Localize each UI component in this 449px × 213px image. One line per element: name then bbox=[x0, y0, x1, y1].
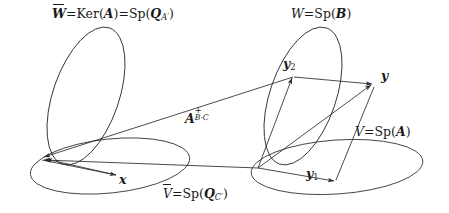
label-w-bar: W=Ker(A)=Sp(QA′) bbox=[52, 6, 174, 22]
label-v: V=Sp(A) bbox=[355, 124, 411, 139]
label-w: W=Sp(B) bbox=[291, 6, 351, 21]
label-vector-y2: y2 bbox=[283, 56, 296, 72]
ellipse-v bbox=[249, 134, 424, 200]
ellipse-w-bar bbox=[31, 17, 140, 175]
diagram-vector-graphics bbox=[0, 0, 449, 213]
label-vector-y1: y1 bbox=[306, 166, 319, 182]
vector-y1 bbox=[258, 168, 334, 181]
label-v-bar: V=Sp(QC′) bbox=[163, 186, 228, 202]
label-pseudoinverse-map: A+B·C bbox=[185, 110, 212, 126]
edge-y2-to-y bbox=[294, 77, 372, 84]
map-line-upper bbox=[44, 77, 293, 157]
label-vector-x: x bbox=[119, 172, 126, 187]
vector-y2 bbox=[258, 78, 292, 168]
label-vector-y: y bbox=[381, 68, 388, 83]
figure-canvas: W=Ker(A)=Sp(QA′) W=Sp(B) V=Sp(QC′) V=Sp(… bbox=[0, 0, 449, 213]
